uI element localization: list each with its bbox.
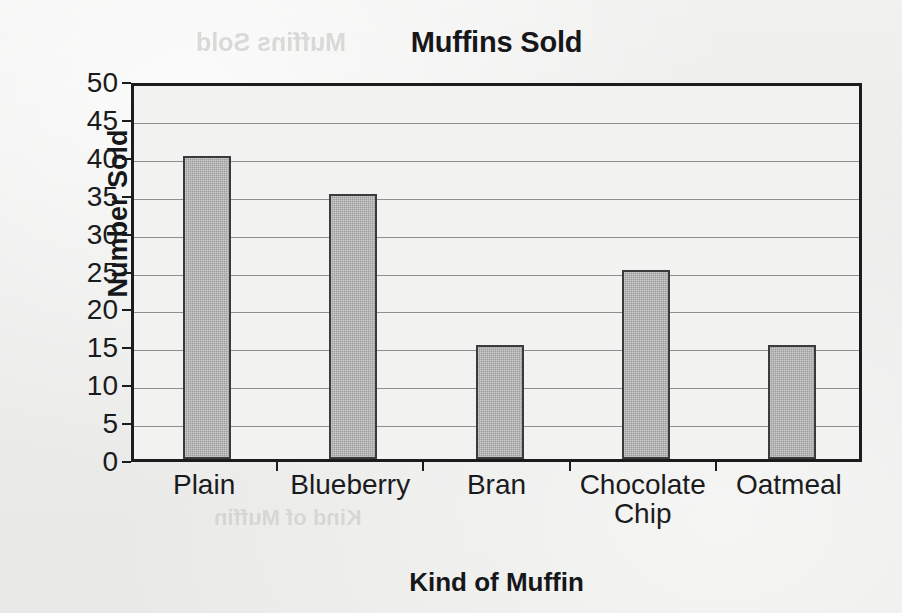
y-axis-tick-mark	[122, 196, 131, 198]
y-axis-tick-mark	[122, 309, 131, 311]
chart-title: Muffins Sold	[131, 26, 862, 59]
y-axis-tick-label: 5	[54, 410, 118, 438]
y-axis-tick-label: 45	[54, 107, 118, 135]
bars-layer	[134, 86, 859, 459]
x-axis-tick-label: Oatmeal	[702, 470, 876, 499]
y-axis-tick-label: 15	[54, 334, 118, 362]
bar	[329, 194, 377, 459]
y-axis-tick-mark	[122, 82, 131, 84]
y-axis-tick-mark	[122, 120, 131, 122]
y-axis-tick-label: 40	[54, 145, 118, 173]
bar	[768, 345, 816, 459]
y-axis-tick-mark	[122, 272, 131, 274]
y-axis-tick-mark	[122, 461, 131, 463]
y-axis-tick-label: 10	[54, 372, 118, 400]
y-axis-tick-label: 25	[54, 259, 118, 287]
x-axis-title: Kind of Muffin	[131, 567, 862, 598]
plot-area	[131, 83, 862, 462]
y-axis-tick-mark	[122, 234, 131, 236]
bar	[183, 156, 231, 459]
bar	[622, 270, 670, 460]
y-axis-tick-label: 0	[54, 448, 118, 476]
bar	[476, 345, 524, 459]
y-axis-tick-mark	[122, 158, 131, 160]
y-axis-tick-label: 50	[54, 69, 118, 97]
y-axis-tick-mark	[122, 385, 131, 387]
y-axis-tick-label: 35	[54, 183, 118, 211]
y-axis-tick-label: 30	[54, 221, 118, 249]
y-axis-tick-mark	[122, 347, 131, 349]
y-axis-tick-label: 20	[54, 296, 118, 324]
y-axis-tick-mark	[122, 423, 131, 425]
